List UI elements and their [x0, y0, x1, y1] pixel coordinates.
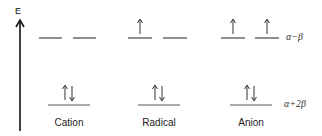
energy-axis: [16, 20, 24, 131]
radical-upper-electron: [138, 19, 143, 34]
anion-upper-electrons: [231, 19, 270, 34]
mo-diagram: [0, 0, 322, 136]
radical-lower-pair: [153, 85, 165, 101]
cation-lower-pair: [63, 85, 75, 101]
cation-levels: [39, 38, 96, 105]
anion-levels: [221, 19, 279, 105]
anion-lower-pair: [245, 85, 257, 101]
radical-levels: [128, 19, 187, 105]
upper-level-label: α−β: [286, 31, 303, 42]
energy-axis-label: E: [15, 6, 21, 16]
lower-level-label: α+2β: [284, 98, 306, 109]
species-label-radical: Radical: [142, 117, 175, 128]
species-label-anion: Anion: [238, 117, 264, 128]
species-label-cation: Cation: [55, 117, 84, 128]
